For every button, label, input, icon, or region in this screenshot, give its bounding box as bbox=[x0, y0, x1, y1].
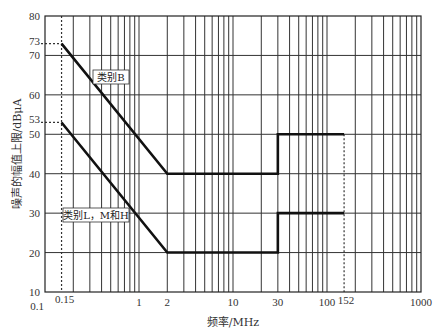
emission-limit-chart: 10203040506070807353 0.10.15121030100152… bbox=[0, 0, 439, 335]
y-tick-label: 80 bbox=[29, 10, 41, 22]
class-b-limit-line bbox=[62, 44, 345, 174]
y-tick-label: 10 bbox=[29, 286, 41, 298]
y-tick-label: 60 bbox=[29, 89, 41, 101]
x-axis-title: 频率/MHz bbox=[207, 315, 260, 329]
x-tick-label: 10 bbox=[228, 296, 240, 308]
x-tick-label: 1 bbox=[136, 296, 142, 308]
y-tick-label: 50 bbox=[29, 128, 41, 140]
class-lmh-limit-line bbox=[62, 122, 345, 252]
x-tick-label: 30 bbox=[272, 296, 284, 308]
annotation-class-lmh: 类别L，M和H bbox=[63, 208, 129, 222]
y-axis-ticks: 10203040506070807353 bbox=[29, 10, 41, 298]
x-axis-ticks: 0.10.151210301001521000 bbox=[30, 293, 432, 312]
x-tick-label: 100 bbox=[319, 296, 336, 308]
annotation-class-b: 类别B bbox=[93, 70, 129, 84]
x-tick-label: 0.1 bbox=[30, 300, 44, 312]
annotation-class-b-label: 类别B bbox=[97, 71, 124, 83]
x-tick-label: 2 bbox=[165, 296, 171, 308]
annotation-class-lmh-label: 类别L，M和H bbox=[63, 209, 129, 221]
y-tick-label-extra: 53 bbox=[29, 113, 41, 125]
x-tick-label: 0.15 bbox=[55, 293, 75, 305]
y-axis-title: 噪声的幅值上限/dBμA bbox=[10, 97, 24, 209]
y-tick-label: 40 bbox=[29, 168, 41, 180]
x-tick-label: 152 bbox=[338, 294, 355, 306]
grid-lines bbox=[45, 16, 421, 292]
y-tick-label: 30 bbox=[29, 207, 41, 219]
y-tick-label-extra: 73 bbox=[29, 35, 41, 47]
y-tick-label: 70 bbox=[29, 49, 41, 61]
y-tick-label: 20 bbox=[29, 247, 41, 259]
x-tick-label: 1000 bbox=[410, 296, 433, 308]
